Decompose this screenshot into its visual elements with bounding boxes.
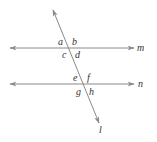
angle-f: f: [87, 72, 91, 83]
label-n: n: [138, 78, 143, 89]
angle-g: g: [76, 86, 81, 97]
label-m: m: [137, 42, 144, 53]
label-l: l: [99, 124, 102, 135]
angle-e: e: [73, 72, 78, 83]
angle-h: h: [89, 86, 94, 97]
angle-a: a: [58, 36, 63, 47]
transversal-l: [53, 10, 99, 123]
angle-c: c: [62, 49, 67, 60]
angle-d: d: [75, 49, 81, 60]
parallel-lines-diagram: m n l a b c d e f g h: [0, 0, 157, 142]
angle-b: b: [72, 36, 77, 47]
